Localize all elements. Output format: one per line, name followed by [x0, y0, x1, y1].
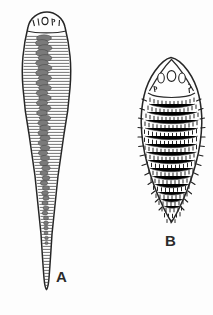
figure-plate: A B — [0, 0, 213, 315]
specimen-b-label: B — [165, 233, 176, 248]
specimen-a — [22, 12, 71, 290]
specimen-a-label: A — [56, 269, 67, 284]
specimen-b — [138, 58, 205, 224]
specimen-illustration — [0, 0, 213, 315]
